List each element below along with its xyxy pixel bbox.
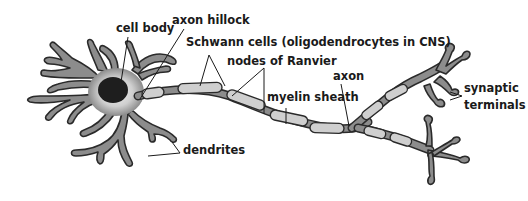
label-synaptic: synaptic <box>464 81 519 95</box>
neuron-diagram: cell body axon hillock Schwann cells (ol… <box>0 0 528 201</box>
label-axon-hillock: axon hillock <box>172 13 250 27</box>
labels: cell body axon hillock Schwann cells (ol… <box>116 13 526 157</box>
label-cell-body: cell body <box>116 21 175 35</box>
synaptic-terminals-lower <box>424 115 469 184</box>
label-schwann-cells: Schwann cells (oligodendrocytes in CNS) <box>186 35 451 49</box>
nucleus <box>98 77 128 103</box>
label-terminals: terminals <box>464 98 526 112</box>
label-dendrites: dendrites <box>183 143 245 157</box>
label-nodes-of-ranvier: nodes of Ranvier <box>227 54 337 68</box>
label-axon: axon <box>333 69 364 83</box>
label-myelin-sheath: myelin sheath <box>267 90 359 104</box>
